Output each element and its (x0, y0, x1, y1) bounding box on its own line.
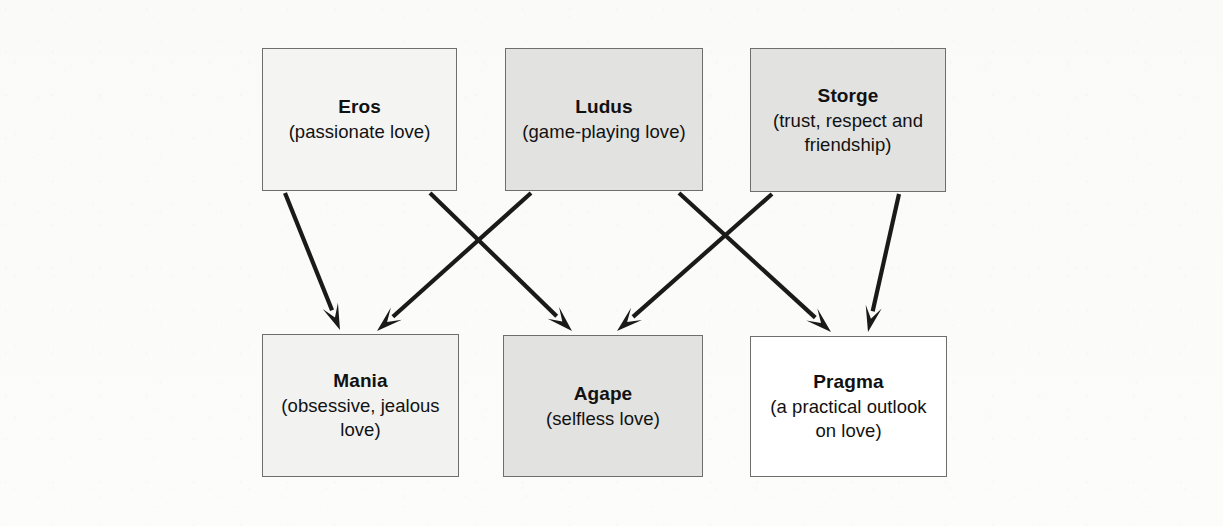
node-agape-title: Agape (574, 382, 633, 406)
node-storge-subtitle: (trust, respect and friendship) (773, 109, 923, 156)
node-mania-title: Mania (333, 369, 387, 393)
node-ludus[interactable]: Ludus (game-playing love) (505, 48, 703, 191)
love-styles-diagram: Eros (passionate love) Ludus (game-playi… (0, 0, 1223, 526)
node-eros-title: Eros (338, 95, 381, 119)
node-mania-subtitle: (obsessive, jealous love) (281, 394, 439, 441)
arrow-eros-to-mania (285, 193, 340, 330)
node-pragma-title: Pragma (813, 370, 883, 394)
node-pragma[interactable]: Pragma (a practical outlook on love) (750, 336, 947, 477)
node-agape[interactable]: Agape (selfless love) (503, 335, 703, 477)
node-pragma-subtitle: (a practical outlook on love) (770, 395, 926, 442)
node-ludus-title: Ludus (575, 95, 633, 119)
node-mania[interactable]: Mania (obsessive, jealous love) (262, 334, 459, 477)
node-eros[interactable]: Eros (passionate love) (262, 48, 457, 191)
arrow-storge-to-pragma (866, 194, 899, 332)
node-storge-title: Storge (818, 84, 879, 108)
node-agape-subtitle: (selfless love) (546, 407, 660, 431)
arrow-storge-to-agape (617, 194, 772, 331)
node-ludus-subtitle: (game-playing love) (522, 120, 685, 144)
node-storge[interactable]: Storge (trust, respect and friendship) (750, 48, 946, 192)
node-eros-subtitle: (passionate love) (289, 120, 431, 144)
arrow-ludus-to-pragma (679, 193, 831, 332)
